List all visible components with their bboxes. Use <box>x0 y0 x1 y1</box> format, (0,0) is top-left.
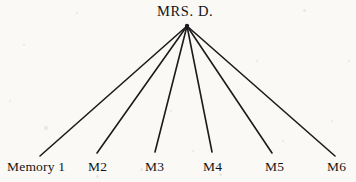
leaf-label-m6: M6 <box>327 160 346 174</box>
fan-line-2 <box>97 26 187 153</box>
root-node-label: MRS. D. <box>157 4 213 19</box>
leaf-label-m5: M5 <box>265 160 284 174</box>
apex-node-dot <box>185 24 189 28</box>
leaf-label-m2: M2 <box>88 160 107 174</box>
leaf-label-m4: M4 <box>203 160 222 174</box>
fan-line-group <box>40 26 335 156</box>
fan-line-1 <box>40 26 187 156</box>
leaf-label-memory-1: Memory 1 <box>7 160 65 174</box>
diagram-canvas: MRS. D. Memory 1 M2 M3 M4 M5 M6 <box>0 0 356 182</box>
fan-line-3 <box>155 26 187 152</box>
fan-lines-svg <box>0 0 356 182</box>
leaf-label-m3: M3 <box>145 160 164 174</box>
